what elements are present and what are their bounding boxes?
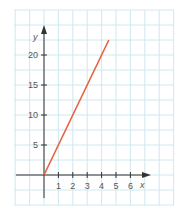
x-axis-arrow-icon [142, 172, 151, 178]
series [44, 40, 109, 175]
y-tick-label: 20 [28, 50, 38, 60]
x-tick-label: 6 [128, 181, 133, 191]
y-tick-label: 5 [33, 140, 38, 150]
x-tick-label: 1 [56, 181, 61, 191]
x-axis-label: x [139, 180, 145, 190]
series-line [44, 40, 109, 175]
x-tick-label: 5 [113, 181, 118, 191]
x-tick-label: 4 [99, 181, 104, 191]
grid [14, 10, 174, 205]
x-tick-label: 2 [70, 181, 75, 191]
y-axis-label: y [32, 32, 38, 42]
y-axis-arrow-icon [41, 25, 47, 34]
y-tick-label: 10 [28, 110, 38, 120]
line-chart: x y 1234565101520 [0, 0, 182, 216]
x-tick-label: 3 [85, 181, 90, 191]
y-tick-label: 15 [28, 80, 38, 90]
